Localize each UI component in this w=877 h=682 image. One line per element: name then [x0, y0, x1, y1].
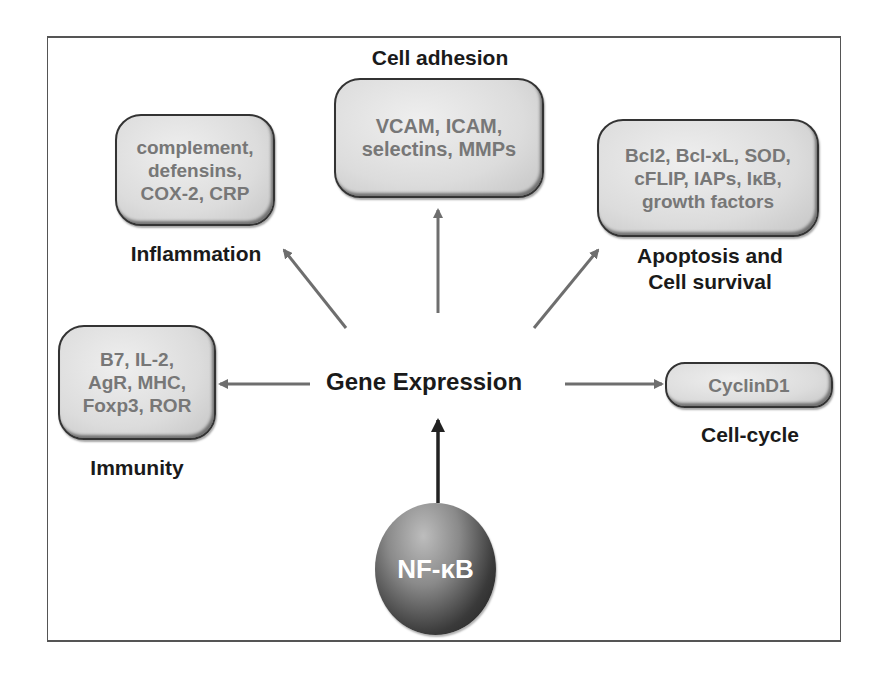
box-inflammation: complement, defensins, COX-2, CRP: [115, 114, 275, 226]
gene-expression-label: Gene Expression: [326, 368, 522, 396]
arrow-to-apoptosis: [534, 250, 598, 328]
box-immunity: B7, IL-2, AgR, MHC, Foxp3, ROR: [58, 325, 216, 440]
box-apoptosis-text: Bcl2, Bcl-xL, SOD, cFLIP, IAPs, IκB, gro…: [625, 144, 791, 213]
label-inflammation: Inflammation: [110, 241, 282, 267]
box-cell-cycle: CyclinD1: [665, 362, 833, 408]
label-immunity: Immunity: [62, 455, 212, 481]
box-cell-cycle-text: CyclinD1: [708, 374, 789, 397]
box-cell-adhesion-text: VCAM, ICAM, selectins, MMPs: [362, 115, 517, 161]
label-apoptosis: Apoptosis and Cell survival: [610, 243, 810, 295]
box-immunity-text: B7, IL-2, AgR, MHC, Foxp3, ROR: [83, 348, 192, 417]
nfkb-label: NF-κB: [397, 554, 474, 585]
nfkb-node: NF-κB: [375, 503, 496, 635]
box-inflammation-text: complement, defensins, COX-2, CRP: [136, 136, 253, 205]
box-cell-adhesion: VCAM, ICAM, selectins, MMPs: [334, 78, 544, 198]
arrow-to-inflammation: [284, 250, 346, 328]
label-cell-adhesion: Cell adhesion: [345, 45, 535, 71]
label-cell-cycle: Cell-cycle: [670, 422, 830, 448]
box-apoptosis: Bcl2, Bcl-xL, SOD, cFLIP, IAPs, IκB, gro…: [597, 119, 819, 237]
